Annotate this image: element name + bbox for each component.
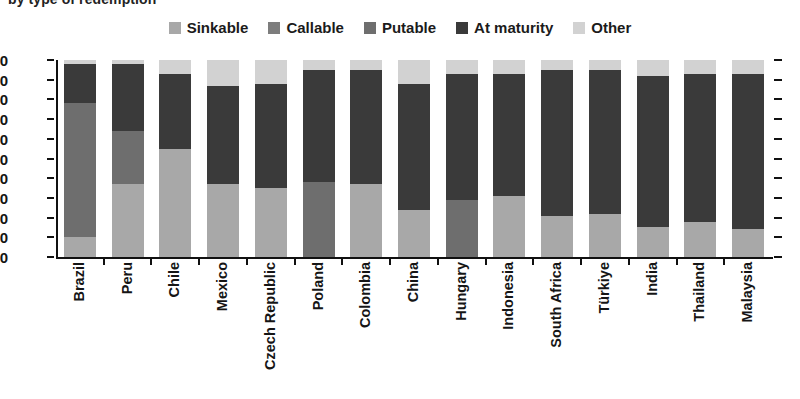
bar-segment-other [303,60,335,70]
y-axis-tick-right [774,118,782,120]
legend-swatch-icon [456,22,468,34]
bar-segment-at-maturity [255,84,287,188]
y-axis-label: 10 [0,230,8,245]
bar-t-rkiye[interactable] [589,60,621,257]
bar-segment-sinkable [493,196,525,257]
bar-segment-at-maturity [350,70,382,184]
bar-segment-at-maturity [112,64,144,131]
bar-peru[interactable] [112,60,144,257]
bar-segment-at-maturity [207,86,239,185]
y-axis-tick-right [774,177,782,179]
y-axis-label: 50 [0,152,8,167]
bar-segment-other [64,60,96,64]
y-axis-label: 100 [0,53,8,68]
bar-segment-at-maturity [732,74,764,230]
bar-segment-other [732,60,764,74]
x-axis-tick [389,259,391,265]
x-axis-label: Türkiye [597,262,612,314]
bar-segment-other [637,60,669,76]
bar-segment-at-maturity [637,76,669,228]
legend-item[interactable]: At maturity [456,20,553,35]
x-axis-tick [580,259,582,265]
bar-segment-other [350,60,382,70]
bar-poland[interactable] [303,60,335,257]
x-axis-tick [198,259,200,265]
legend-item[interactable]: Putable [364,20,436,35]
bar-chile[interactable] [159,60,191,257]
legend-item-label: Sinkable [187,20,249,35]
x-axis-label: Malaysia [740,262,755,322]
legend-item[interactable]: Sinkable [169,20,249,35]
x-axis-tick [532,259,534,265]
bar-china[interactable] [398,60,430,257]
x-axis-tick [294,259,296,265]
bar-segment-at-maturity [493,74,525,196]
bar-malaysia[interactable] [732,60,764,257]
y-axis-tick [47,158,54,160]
chart-title: by type of redemption [8,0,156,7]
y-axis-label: 60 [0,132,8,147]
bar-segment-other [684,60,716,74]
x-axis-label: Brazil [72,262,87,302]
x-axis-label: Colombia [358,262,373,328]
bar-segment-sinkable [589,214,621,257]
bar-czech-republic[interactable] [255,60,287,257]
bar-segment-putable [446,200,478,257]
legend-swatch-icon [573,22,585,34]
x-axis-label: South Africa [549,262,564,348]
x-axis-tick [103,259,105,265]
y-axis-tick [47,197,54,199]
bar-segment-other [493,60,525,74]
legend-item-label: Putable [382,20,436,35]
bar-segment-sinkable [255,188,287,257]
chart-legend: SinkableCallablePutableAt maturityOther [0,20,800,35]
legend-swatch-icon [268,22,280,34]
y-axis-line [56,60,58,257]
plot-area: 0102030405060708090100 [56,60,771,257]
bar-segment-sinkable [732,229,764,257]
y-axis-tick [47,236,54,238]
y-axis-tick [47,256,54,258]
bar-hungary[interactable] [446,60,478,257]
bar-segment-at-maturity [684,74,716,222]
bar-india[interactable] [637,60,669,257]
legend-item[interactable]: Other [573,20,631,35]
bar-south-africa[interactable] [541,60,573,257]
legend-swatch-icon [364,22,376,34]
bar-brazil[interactable] [64,60,96,257]
bar-segment-sinkable [112,184,144,257]
y-axis-label: 0 [0,250,8,265]
x-axis-label: Czech Republic [263,262,278,370]
x-axis-tick [485,259,487,265]
x-axis-label: Peru [120,262,135,294]
bar-thailand[interactable] [684,60,716,257]
y-axis-tick-right [774,217,782,219]
y-axis-tick [47,177,54,179]
x-axis-label: Hungary [454,262,469,321]
y-axis-tick [47,217,54,219]
x-axis-tick [628,259,630,265]
bar-indonesia[interactable] [493,60,525,257]
y-axis-tick-right [774,79,782,81]
bar-segment-at-maturity [303,70,335,182]
bar-segment-sinkable [350,184,382,257]
bar-segment-other [589,60,621,70]
y-axis-tick [47,138,54,140]
bar-mexico[interactable] [207,60,239,257]
y-axis-tick-right [774,98,782,100]
y-axis-label: 80 [0,92,8,107]
bar-segment-at-maturity [159,74,191,149]
x-axis-line [56,257,773,259]
bar-segment-sinkable [398,210,430,257]
bar-segment-at-maturity [398,84,430,210]
bar-colombia[interactable] [350,60,382,257]
y-axis-tick [47,98,54,100]
legend-item[interactable]: Callable [268,20,344,35]
y-axis-tick-right [774,236,782,238]
bar-segment-putable [303,182,335,257]
bar-segment-putable [64,103,96,237]
y-axis-label: 90 [0,73,8,88]
bar-segment-at-maturity [64,64,96,103]
bar-segment-sinkable [64,237,96,257]
x-axis-label: Mexico [215,262,230,311]
